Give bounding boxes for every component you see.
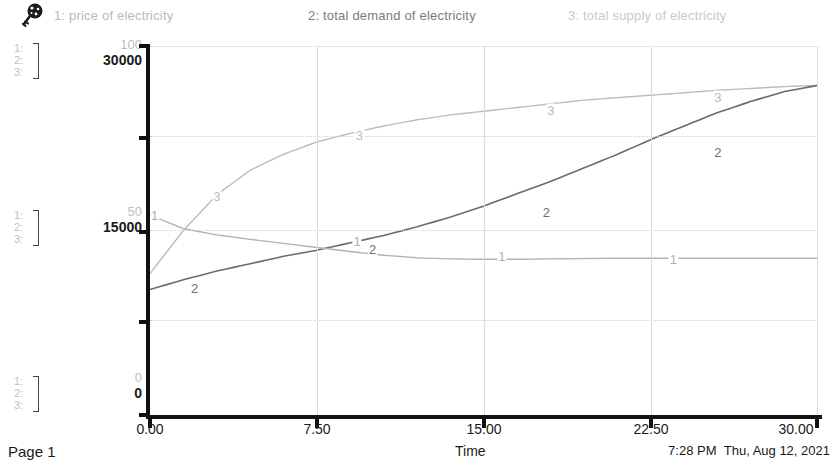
footer-date-value: Thu, Aug 12, 2021 — [724, 443, 830, 458]
y-axis-label-top: 100 30000 — [54, 38, 142, 68]
legend-item-total-supply-of-electricity: 3: total supply of electricity — [568, 8, 726, 23]
vertical-gridline — [817, 46, 818, 415]
y-axis-value-scale1-middle: 50 — [54, 205, 142, 219]
x-axis-label: 15.00 — [449, 421, 519, 437]
series-tag-3: 3 — [713, 91, 722, 104]
chart-legend: 1: price of electricity 2: total demand … — [0, 0, 836, 34]
y-axis-tick — [139, 136, 147, 140]
x-axis-label: 22.50 — [616, 421, 686, 437]
scale-bracket — [33, 210, 39, 246]
scale-label-3: 3: — [14, 399, 23, 411]
series-tag-1: 1 — [150, 209, 159, 222]
footer-time-value: 7:28 PM — [668, 443, 716, 458]
y-axis-tick — [139, 230, 147, 234]
series-tag-2: 2 — [542, 206, 551, 219]
footer-timestamp: 7:28 PM Thu, Aug 12, 2021 — [668, 443, 830, 458]
x-axis-label: 30.00 — [761, 421, 831, 437]
y-axis-label-middle: 50 15000 — [54, 205, 142, 235]
series-tag-2: 2 — [368, 243, 377, 256]
x-axis-label: 0.00 — [115, 421, 185, 437]
scale-bracket — [33, 376, 39, 412]
scale-label-1: 1: — [14, 375, 23, 387]
series-tag-3: 3 — [212, 190, 221, 203]
series-tag-3: 3 — [546, 104, 555, 117]
key-icon — [20, 3, 48, 29]
scale-label-2: 2: — [14, 54, 23, 66]
scale-label-1: 1: — [14, 209, 23, 221]
y-axis-value-scale1-bottom: 0 — [54, 371, 142, 385]
legend-item-price-of-electricity: 1: price of electricity — [54, 8, 173, 23]
y-axis-value-scale23-top: 30000 — [54, 52, 142, 68]
y-axis-value-scale23-middle: 15000 — [54, 219, 142, 235]
series-tag-1: 1 — [352, 235, 361, 248]
series-tag-2: 2 — [190, 282, 199, 295]
x-axis-label: 7.50 — [282, 421, 352, 437]
scale-label-3: 3: — [14, 233, 23, 245]
series-tag-2: 2 — [713, 146, 722, 159]
series-tag-1: 1 — [497, 250, 506, 263]
y-axis-tick — [139, 320, 147, 324]
scale-stack-middle: 1: 2: 3: — [14, 209, 48, 245]
page-label: Page 1 — [8, 443, 56, 460]
y-axis-value-scale23-bottom: 0 — [54, 385, 142, 401]
vertical-gridline — [317, 46, 318, 415]
scale-label-2: 2: — [14, 387, 23, 399]
scale-stack-top: 1: 2: 3: — [14, 42, 48, 78]
y-axis-tick — [139, 413, 147, 417]
vertical-gridline — [484, 46, 485, 415]
scale-stack-bottom: 1: 2: 3: — [14, 375, 48, 411]
scale-label-3: 3: — [14, 66, 23, 78]
legend-item-total-demand-of-electricity: 2: total demand of electricity — [308, 8, 476, 23]
scale-label-2: 2: — [14, 221, 23, 233]
x-axis-title: Time — [455, 443, 486, 459]
chart-plot-area: 111122223333 — [150, 46, 818, 415]
series-tag-1: 1 — [669, 253, 678, 266]
vertical-gridline — [651, 46, 652, 415]
y-axis-value-scale1-top: 100 — [54, 38, 142, 52]
y-axis-tick — [139, 44, 147, 48]
scale-label-1: 1: — [14, 42, 23, 54]
y-axis-label-bottom: 0 0 — [54, 371, 142, 401]
series-tag-3: 3 — [355, 129, 364, 142]
scale-bracket — [33, 43, 39, 79]
